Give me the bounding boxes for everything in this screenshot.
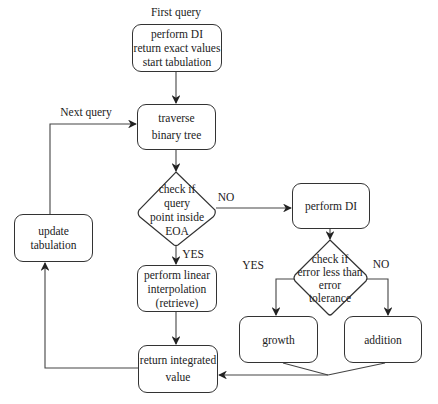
node-return-value: return integrated value [138,345,218,393]
edge-addition-merge [328,363,385,375]
node-perform-di: perform DI [292,183,370,229]
node-addition: addition [344,316,422,363]
label-error-no: NO [370,257,392,271]
label-eoa-yes: YES [180,247,206,261]
label-eoa-no: NO [214,190,238,204]
node-start: perform DI return exact values start tab… [132,24,222,72]
node-linear-interp: perform linear interpolation (retrieve) [137,265,217,312]
label-error-yes: YES [240,258,266,272]
node-growth: growth [239,316,318,363]
node-check-error-text: check if error less than error tolerance [292,248,368,310]
edge-check-error-to-addition [367,279,388,315]
flowchart-canvas: First query Next query NO YES YES NO per… [0,0,438,404]
edge-return-to-update [45,263,138,368]
node-update-tabulation: update tabulation [14,214,93,262]
edge-growth-merge [283,363,328,375]
node-traverse: traverse binary tree [137,104,216,150]
edge-update-to-traverse [50,124,136,214]
label-next-query: Next query [58,104,114,120]
node-check-eoa-text: check if query point inside EOA [140,180,214,240]
label-first-query: First query [140,4,212,20]
